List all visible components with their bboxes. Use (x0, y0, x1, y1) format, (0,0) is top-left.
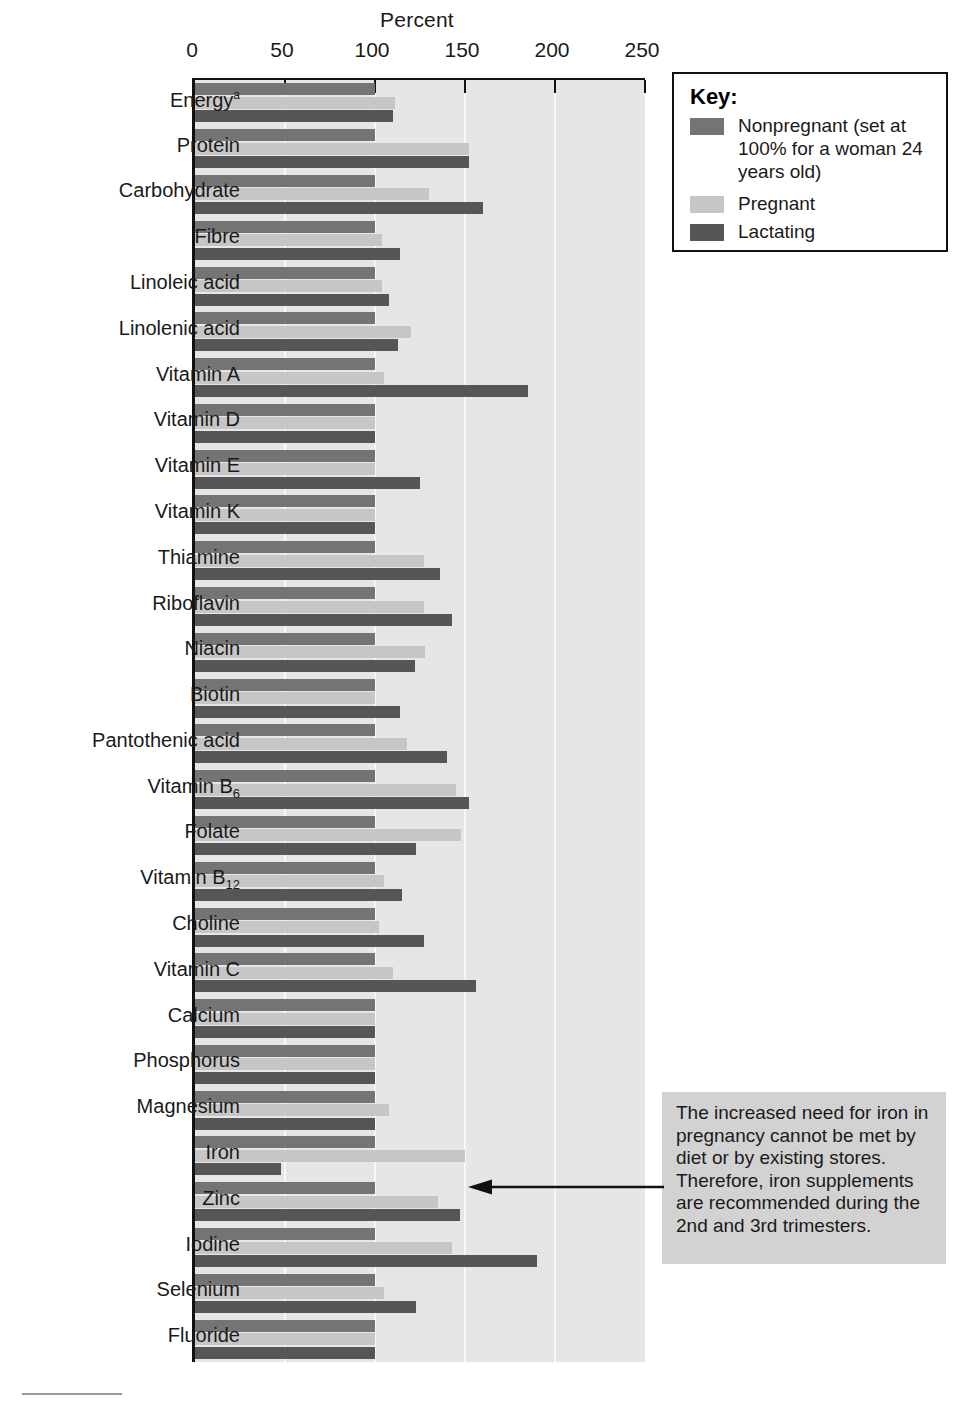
legend-key-box: Key: Nonpregnant (set at 100% for a woma… (672, 72, 948, 252)
nutrient-requirements-bar-chart: Percent 050100150200250 Key: Nonpregnant… (0, 0, 968, 1418)
iron-annotation-callout: The increased need for iron in pregnancy… (662, 1092, 946, 1264)
category-label-vitamin-k: Vitamin K (50, 500, 240, 523)
x-tick-label-250: 250 (624, 38, 659, 62)
bar-group (195, 492, 645, 538)
category-label-thiamine: Thiamine (50, 546, 240, 569)
bar-group (195, 1316, 645, 1362)
bar-lactating (195, 1072, 375, 1084)
bar-group (195, 1225, 645, 1271)
bar-lactating (195, 1026, 375, 1038)
bar-group (195, 675, 645, 721)
bar-lactating (195, 980, 476, 992)
x-axis-tick-labels: 050100150200250 (0, 38, 968, 66)
bar-lactating (195, 156, 469, 168)
bar-group (195, 172, 645, 218)
bar-group (195, 126, 645, 172)
plot-area (192, 78, 645, 1362)
bar-lactating (195, 614, 452, 626)
bar-lactating (195, 431, 375, 443)
bar-lactating (195, 1209, 460, 1221)
category-label-iron: Iron (50, 1141, 240, 1164)
bar-group (195, 1042, 645, 1088)
bar-group (195, 584, 645, 630)
category-label-biotin: Biotin (50, 683, 240, 706)
bar-lactating (195, 1118, 375, 1130)
category-label-pantothenic-acid: Pantothenic acid (50, 729, 240, 752)
category-label-vitamin-b: Vitamin B12 (50, 866, 240, 892)
lactating-swatch (690, 224, 724, 241)
bar-lactating (195, 248, 400, 260)
category-label-niacin: Niacin (50, 637, 240, 660)
category-label-zinc: Zinc (50, 1187, 240, 1210)
bar-group (195, 950, 645, 996)
bar-lactating (195, 477, 420, 489)
bar-group (195, 1133, 645, 1179)
bar-group (195, 1270, 645, 1316)
category-label-folate: Folate (50, 820, 240, 843)
bar-group (195, 858, 645, 904)
legend-label: Nonpregnant (set at 100% for a woman 24 … (738, 114, 950, 183)
bar-group (195, 401, 645, 447)
x-tick-label-150: 150 (444, 38, 479, 62)
legend-title: Key: (690, 84, 738, 110)
nonpregnant-swatch (690, 118, 724, 135)
category-label-vitamin-a: Vitamin A (50, 363, 240, 386)
category-label-carbohydrate: Carbohydrate (50, 179, 240, 202)
bar-lactating (195, 706, 400, 718)
bar-lactating (195, 1347, 375, 1359)
plot-inner (195, 80, 645, 1362)
legend-label: Lactating (738, 220, 950, 243)
x-tick-label-0: 0 (186, 38, 198, 62)
footnote-rule (22, 1393, 122, 1395)
bar-lactating (195, 339, 398, 351)
bar-group (195, 446, 645, 492)
bar-lactating (195, 843, 416, 855)
bar-group (195, 217, 645, 263)
category-label-calcium: Calcium (50, 1004, 240, 1027)
bar-lactating (195, 935, 424, 947)
category-label-riboflavin: Riboflavin (50, 592, 240, 615)
bar-lactating (195, 202, 483, 214)
category-label-phosphorus: Phosphorus (50, 1049, 240, 1072)
bar-group (195, 904, 645, 950)
bar-lactating (195, 1255, 537, 1267)
bar-lactating (195, 385, 528, 397)
legend-label: Pregnant (738, 192, 950, 215)
category-label-vitamin-d: Vitamin D (50, 408, 240, 431)
category-label-selenium: Selenium (50, 1278, 240, 1301)
category-label-vitamin-b: Vitamin B6 (50, 775, 240, 801)
bar-lactating (195, 660, 415, 672)
bar-lactating (195, 568, 440, 580)
bar-lactating (195, 1163, 281, 1175)
category-label-vitamin-e: Vitamin E (50, 454, 240, 477)
x-axis-title: Percent (192, 8, 642, 32)
bar-group (195, 813, 645, 859)
bar-group (195, 80, 645, 126)
pregnant-swatch (690, 196, 724, 213)
bar-group (195, 538, 645, 584)
axis-right-cap (644, 80, 646, 93)
category-label-fibre: Fibre (50, 225, 240, 248)
bar-lactating (195, 751, 447, 763)
bar-group (195, 629, 645, 675)
bar-group (195, 996, 645, 1042)
bar-group (195, 263, 645, 309)
category-label-vitamin-c: Vitamin C (50, 958, 240, 981)
bar-group (195, 1087, 645, 1133)
category-label-protein: Protein (50, 134, 240, 157)
category-label-linoleic-acid: Linoleic acid (50, 271, 240, 294)
bar-group (195, 767, 645, 813)
x-tick-label-50: 50 (270, 38, 293, 62)
category-label-magnesium: Magnesium (50, 1095, 240, 1118)
x-tick-label-100: 100 (354, 38, 389, 62)
bar-group (195, 309, 645, 355)
category-label-iodine: Iodine (50, 1233, 240, 1256)
bar-group (195, 721, 645, 767)
category-label-energy: Energya (50, 88, 240, 112)
category-label-fluoride: Fluoride (50, 1324, 240, 1347)
iron-annotation-text: The increased need for iron in pregnancy… (676, 1102, 934, 1238)
bar-group (195, 355, 645, 401)
category-label-choline: Choline (50, 912, 240, 935)
bar-lactating (195, 1301, 416, 1313)
bar-lactating (195, 110, 393, 122)
